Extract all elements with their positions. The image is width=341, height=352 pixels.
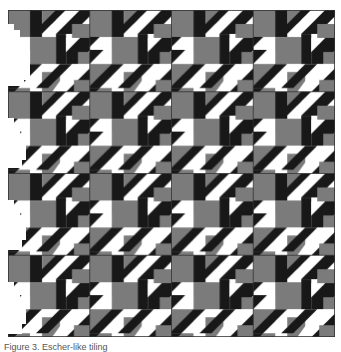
tiling-figure — [8, 10, 335, 337]
tiling-svg — [8, 10, 335, 337]
figure-caption: Figure 3. Escher-like tiling — [4, 343, 108, 352]
